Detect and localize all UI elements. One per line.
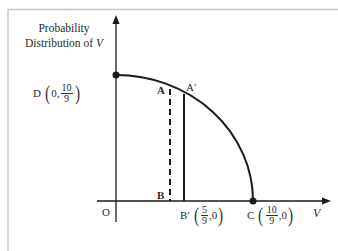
close-paren: ) bbox=[288, 204, 293, 226]
point-c-y: 0 bbox=[281, 209, 287, 221]
origin-label: O bbox=[102, 207, 110, 218]
point-c-x-denominator: 9 bbox=[268, 216, 275, 226]
close-paren: ) bbox=[75, 82, 80, 104]
close-paren: ) bbox=[218, 204, 223, 226]
point-a-label: A bbox=[157, 85, 165, 96]
y-axis-title-text: Distribution of bbox=[25, 37, 93, 49]
open-paren: ( bbox=[45, 82, 50, 104]
point-a-prime-label: A′ bbox=[186, 82, 196, 93]
point-c-x-numerator: 10 bbox=[266, 205, 278, 216]
point-b-prime-label: B′ ( 5 9 ,0 ) bbox=[180, 204, 225, 226]
point-b-prime-x-fraction: 5 9 bbox=[201, 205, 208, 226]
point-d-y-fraction: 10 9 bbox=[61, 83, 73, 104]
x-axis-label: V bbox=[313, 207, 320, 219]
y-axis-title-line2: Distribution of V bbox=[18, 36, 110, 51]
y-axis-title: Probability Distribution of V bbox=[18, 21, 110, 51]
point-d-marker bbox=[113, 72, 120, 79]
point-c-label: C ( 10 9 ,0 ) bbox=[247, 204, 294, 226]
y-axis-arrow-icon bbox=[113, 15, 120, 24]
point-b-prime-x-numerator: 5 bbox=[201, 205, 208, 216]
point-d-name: D bbox=[33, 87, 41, 99]
point-d-y-denominator: 9 bbox=[63, 94, 70, 104]
point-c-x-fraction: 10 9 bbox=[266, 205, 278, 226]
point-b-label: B bbox=[157, 190, 164, 201]
point-b-prime-name: B′ bbox=[180, 209, 190, 221]
x-axis-arrow-icon bbox=[322, 198, 331, 205]
point-b-prime-y: 0 bbox=[212, 209, 218, 221]
point-c-name: C bbox=[247, 209, 254, 221]
y-axis-title-line1: Probability bbox=[18, 21, 110, 36]
open-paren: ( bbox=[258, 204, 263, 226]
point-b-prime-x-denominator: 9 bbox=[201, 216, 208, 226]
point-d-y-numerator: 10 bbox=[61, 83, 73, 94]
point-d-label: D ( 0, 10 9 ) bbox=[33, 82, 81, 104]
comma: , bbox=[57, 87, 60, 99]
y-axis-title-variable: V bbox=[96, 37, 103, 49]
open-paren: ( bbox=[194, 204, 199, 226]
